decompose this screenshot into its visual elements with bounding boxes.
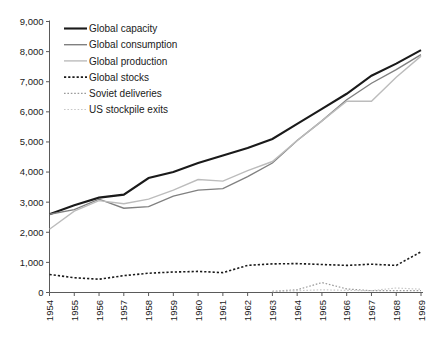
y-tick-label: 4,000 <box>20 166 44 177</box>
y-tick-label: 7,000 <box>20 76 44 87</box>
x-tick-label: 1969 <box>416 300 427 321</box>
chart-legend: Global capacityGlobal consumptionGlobal … <box>64 23 177 115</box>
y-tick-label: 1,000 <box>20 257 44 268</box>
x-tick-label: 1964 <box>292 300 303 321</box>
series-lines <box>50 50 422 291</box>
y-tick-label: 9,000 <box>20 16 44 27</box>
series-line-soviet-deliveries <box>272 283 421 292</box>
series-line-global-stocks <box>50 252 422 279</box>
y-tick-label: 5,000 <box>20 136 44 147</box>
x-tick-label: 1961 <box>217 300 228 321</box>
x-tick-label: 1963 <box>267 300 278 321</box>
y-tick-label: 0 <box>38 287 43 298</box>
y-axis: 01,0002,0003,0004,0005,0006,0007,0008,00… <box>20 16 50 298</box>
y-tick-label: 2,000 <box>20 227 44 238</box>
x-tick-label: 1956 <box>94 300 105 321</box>
x-tick-label: 1955 <box>69 300 80 321</box>
x-tick-label: 1957 <box>118 300 129 321</box>
y-tick-label: 3,000 <box>20 197 44 208</box>
x-tick-label: 1968 <box>391 300 402 321</box>
chart-canvas: 01,0002,0003,0004,0005,0006,0007,0008,00… <box>0 0 431 337</box>
legend-label: Global consumption <box>89 39 177 50</box>
y-tick-label: 6,000 <box>20 106 44 117</box>
legend-label: US stockpile exits <box>89 104 168 115</box>
x-tick-label: 1954 <box>44 300 55 321</box>
x-tick-label: 1959 <box>168 300 179 321</box>
legend-label: Global stocks <box>89 72 149 83</box>
x-tick-label: 1967 <box>366 300 377 321</box>
x-axis: 1954195519561957195819591960196119621963… <box>44 293 427 322</box>
x-tick-label: 1960 <box>193 300 204 321</box>
x-tick-label: 1962 <box>242 300 253 321</box>
x-tick-label: 1966 <box>341 300 352 321</box>
legend-label: Global capacity <box>89 23 157 34</box>
legend-label: Global production <box>89 56 167 67</box>
legend-label: Soviet deliveries <box>89 88 162 99</box>
y-tick-label: 8,000 <box>20 46 44 57</box>
x-tick-label: 1965 <box>317 300 328 321</box>
line-chart: 01,0002,0003,0004,0005,0006,0007,0008,00… <box>0 0 431 337</box>
x-tick-label: 1958 <box>143 300 154 321</box>
